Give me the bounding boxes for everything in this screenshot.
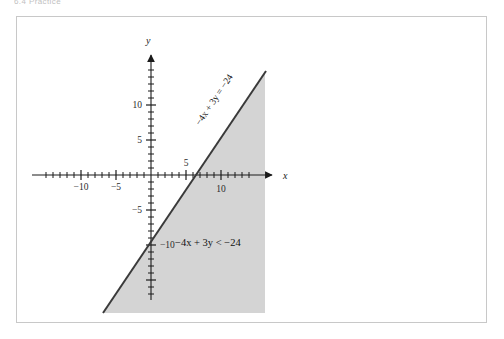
x-tick-label-neg5: −5 — [111, 182, 121, 192]
x-tick-label-neg10: −10 — [74, 182, 89, 192]
line-equation-label: −4x + 3y = −24 — [193, 72, 235, 127]
y-tick-label-5: 5 — [137, 135, 142, 145]
y-tick-label-10: 10 — [133, 100, 143, 110]
figure-root: 6.4 Practice — [0, 0, 504, 339]
x-tick-label-5: 5 — [184, 158, 189, 168]
x-axis-name-label: x — [282, 170, 288, 181]
y-axis-name-label: y — [145, 35, 151, 46]
y-tick-label-neg10: −10 — [160, 240, 175, 250]
coordinate-plane-plot: x y −10 −5 5 10 10 5 −5 −10 −4x + 3y = −… — [0, 0, 504, 339]
x-tick-label-10: 10 — [216, 184, 226, 194]
inequality-region-label: −4x + 3y < −24 — [175, 237, 241, 248]
y-tick-label-neg5: −5 — [132, 205, 142, 215]
